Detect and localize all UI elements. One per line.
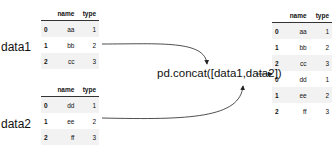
- arrow-data2: [102, 86, 243, 119]
- arrows: [0, 0, 336, 158]
- arrow-data1: [102, 44, 207, 64]
